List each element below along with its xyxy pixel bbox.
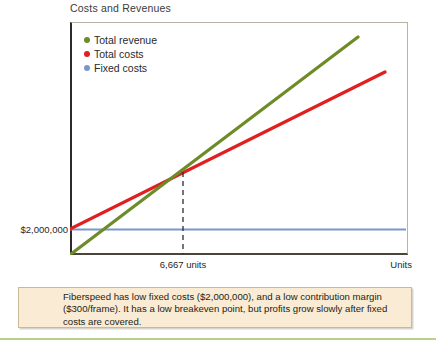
- legend-label-total-costs: Total costs: [94, 48, 144, 60]
- caption-text: Fiberspeed has low fixed costs ($2,000,0…: [63, 291, 397, 328]
- legend-swatch-total-revenue: [84, 37, 90, 43]
- series-line-total-costs: [70, 72, 385, 229]
- legend-swatch-fixed-costs: [84, 65, 90, 71]
- legend-item-fixed-costs: Fixed costs: [84, 61, 157, 74]
- chart-title: Costs and Revenues: [70, 2, 171, 14]
- bottom-divider: [0, 338, 436, 340]
- legend-swatch-total-costs: [84, 51, 90, 57]
- chart-legend: Total revenue Total costs Fixed costs: [84, 33, 157, 74]
- figure-container: Costs and Revenues Total revenue Total c…: [0, 0, 436, 347]
- caption-box: Fiberspeed has low fixed costs ($2,000,0…: [18, 287, 412, 328]
- legend-item-total-revenue: Total revenue: [84, 33, 157, 46]
- y-axis-tick-label: $2,000,000: [20, 224, 68, 235]
- legend-label-total-revenue: Total revenue: [94, 34, 157, 46]
- x-axis-tick-label-breakeven: 6,667 units: [160, 259, 206, 270]
- x-axis-title: Units: [390, 259, 412, 270]
- legend-item-total-costs: Total costs: [84, 47, 157, 60]
- legend-label-fixed-costs: Fixed costs: [94, 62, 147, 74]
- y-axis-tick-group: $2,000,000: [0, 224, 68, 236]
